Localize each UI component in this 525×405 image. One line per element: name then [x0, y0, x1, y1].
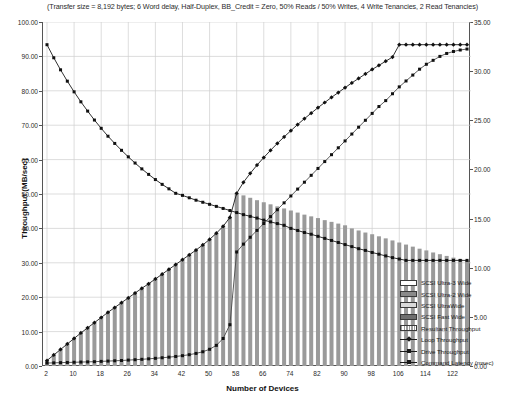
legend-item[interactable]: SCSI Ultra-3 Wide: [400, 277, 518, 288]
legend-marker-icon: [406, 336, 412, 342]
command-latency-msec-marker: [445, 52, 448, 55]
drive-throughput-marker: [222, 207, 225, 210]
bar: [343, 225, 347, 366]
x-axis-tick-label: 98: [367, 370, 374, 377]
legend-swatch-hatch: [400, 325, 417, 331]
x-axis-tick-label: 90: [340, 370, 347, 377]
legend-swatch-box: [400, 302, 417, 308]
loop-throughput-marker: [411, 43, 415, 47]
command-latency-msec-marker: [411, 74, 414, 77]
drive-throughput-marker: [181, 194, 184, 197]
bar: [241, 195, 245, 366]
legend-item-label: Drive Throughput: [421, 348, 469, 355]
command-latency-msec-marker: [147, 357, 150, 360]
command-latency-msec-marker: [188, 353, 191, 356]
y-axis-left-tick-label: 70.00: [2, 122, 38, 129]
y-axis-right-tick-label: 15.00: [474, 215, 514, 222]
legend-item[interactable]: SCSI Fast Wide: [400, 311, 518, 322]
legend-item[interactable]: Loop Throughput: [400, 334, 518, 345]
drive-throughput-marker: [79, 100, 82, 103]
chart-subtitle: (Transfer size = 8,192 bytes; 6 Word del…: [0, 2, 525, 11]
drive-throughput-marker: [161, 183, 164, 186]
legend-marker-icon: [407, 349, 411, 353]
command-latency-msec-marker: [289, 194, 292, 197]
y-axis-left-title: Throughput (MB/sec): [20, 119, 29, 279]
command-latency-msec-marker: [283, 201, 286, 204]
y-axis-right-tick-label: 10.00: [474, 264, 514, 271]
command-latency-msec-marker: [303, 181, 306, 184]
drive-throughput-marker: [350, 245, 353, 248]
drive-throughput-marker: [52, 56, 55, 59]
drive-throughput-marker: [405, 259, 408, 262]
bar: [126, 298, 130, 366]
bar: [208, 239, 212, 366]
legend-item[interactable]: SCSI Ultra-2 Wide: [400, 288, 518, 299]
drive-throughput-marker: [269, 220, 272, 223]
bar: [275, 206, 279, 366]
legend-swatch-line: [400, 337, 417, 343]
legend-item[interactable]: Command Latency (msec): [400, 357, 518, 368]
drive-throughput-marker: [93, 119, 96, 122]
loop-throughput-marker: [445, 43, 449, 47]
x-axis-tick-label: 18: [97, 370, 104, 377]
bar: [363, 233, 367, 366]
x-axis-tick-label: 42: [178, 370, 185, 377]
command-latency-msec-marker: [52, 361, 55, 364]
loop-throughput-marker: [377, 63, 381, 67]
bar: [350, 228, 354, 366]
drive-throughput-marker: [140, 167, 143, 170]
drive-throughput-marker: [316, 235, 319, 238]
legend-swatch-box: [400, 314, 417, 320]
x-axis-tick-label: 74: [286, 370, 293, 377]
bar: [187, 255, 191, 366]
legend-item-label: Command Latency (msec): [421, 359, 494, 366]
command-latency-msec-marker: [242, 243, 245, 246]
command-latency-msec-marker: [66, 361, 69, 364]
bar: [377, 236, 381, 366]
drive-throughput-marker: [46, 43, 49, 46]
legend-item-label: SCSI UltraWide: [421, 302, 464, 309]
bar: [302, 215, 306, 366]
y-axis-left-tick-label: 80.00: [2, 87, 38, 94]
y-axis-left-tick-mark: [39, 366, 42, 367]
bar: [228, 217, 232, 366]
loop-throughput-marker: [390, 55, 394, 59]
loop-throughput-marker: [458, 43, 462, 47]
command-latency-msec-marker: [337, 146, 340, 149]
command-latency-msec-marker: [269, 215, 272, 218]
legend-item[interactable]: SCSI UltraWide: [400, 300, 518, 311]
command-latency-msec-marker: [405, 79, 408, 82]
command-latency-msec-marker: [113, 359, 116, 362]
drive-throughput-marker: [418, 259, 421, 262]
drive-throughput-marker: [364, 249, 367, 252]
legend-item[interactable]: Resultant Throughput: [400, 323, 518, 334]
loop-throughput-marker: [465, 43, 469, 47]
drive-throughput-marker: [445, 259, 448, 262]
x-axis-tick-label: 82: [313, 370, 320, 377]
drive-throughput-marker: [466, 259, 469, 262]
drive-throughput-marker: [411, 259, 414, 262]
bar: [357, 230, 361, 366]
drive-throughput-marker: [249, 215, 252, 218]
x-axis-tick-label: 34: [151, 370, 158, 377]
x-axis-tick-label: 26: [124, 370, 131, 377]
command-latency-msec-marker: [120, 359, 123, 362]
bar: [221, 226, 225, 366]
command-latency-msec-marker: [154, 357, 157, 360]
drive-throughput-marker: [188, 196, 191, 199]
command-latency-msec-marker: [276, 208, 279, 211]
command-latency-msec-marker: [350, 133, 353, 136]
legend-swatch-box: [400, 280, 417, 286]
legend-item[interactable]: Drive Throughput: [400, 345, 518, 356]
bar: [174, 265, 178, 366]
command-latency-msec-marker: [201, 350, 204, 353]
bar: [235, 193, 239, 366]
y-axis-left-tick-label: 30.00: [2, 259, 38, 266]
command-latency-msec-marker: [398, 85, 401, 88]
bar: [336, 224, 340, 366]
drive-throughput-marker: [323, 237, 326, 240]
bar: [133, 293, 137, 366]
drive-throughput-marker: [120, 149, 123, 152]
command-latency-msec-marker: [46, 362, 49, 365]
drive-throughput-marker: [391, 256, 394, 259]
